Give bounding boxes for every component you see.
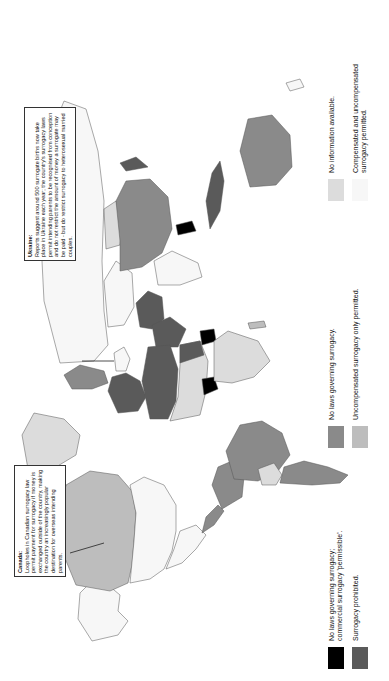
legend-swatch	[352, 426, 368, 448]
legend-label: Uncompensated surrogacy only permitted.	[352, 288, 360, 420]
legend-item-no-information: No information available.	[328, 96, 344, 201]
legend-item-commercial-permissible: No laws governing surrogacy; commercial …	[328, 531, 344, 669]
legend-swatch	[328, 426, 344, 448]
legend-label: No laws governing surrogacy.	[328, 328, 336, 420]
figure-page: Canada: Loopholes in Canadian surrogacy …	[0, 0, 389, 681]
rotated-figure: Canada: Loopholes in Canadian surrogacy …	[0, 0, 389, 681]
legend-item-compensated-and-uncompensated: Compensated and uncompensated surrogacy …	[352, 64, 368, 201]
legend-label: Surrogacy prohibited.	[352, 574, 360, 641]
legend-label: No information available.	[328, 96, 336, 173]
legend-item-no-laws: No laws governing surrogacy.	[328, 328, 344, 448]
legend-swatch	[328, 179, 344, 201]
legend-swatch	[328, 647, 344, 669]
legend-item-uncompensated-only: Uncompensated surrogacy only permitted.	[352, 288, 368, 448]
legend-label: Compensated and uncompensated surrogacy …	[352, 64, 368, 173]
legend-item-prohibited: Surrogacy prohibited.	[352, 574, 368, 669]
legend-swatch	[352, 647, 368, 669]
legend: No laws governing surrogacy; commercial …	[0, 0, 389, 681]
legend-label: No laws governing surrogacy; commercial …	[328, 531, 344, 641]
legend-swatch	[352, 179, 368, 201]
